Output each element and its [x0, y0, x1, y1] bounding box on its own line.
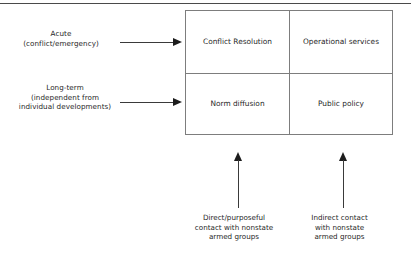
- arrow-shaft: [120, 42, 173, 43]
- column-caption-indirect-line-1: Indirect contact: [292, 213, 387, 223]
- arrow-head: [173, 38, 182, 46]
- matrix-cell-public-policy: Public policy: [289, 73, 392, 135]
- matrix-cell-conflict-resolution: Conflict Resolution: [186, 11, 289, 73]
- arrow-head: [173, 98, 182, 106]
- matrix-cell-label: Norm diffusion: [210, 99, 264, 109]
- column-caption-indirect-contact: Indirect contact with nonstate armed gro…: [292, 213, 387, 242]
- matrix-cell-label: Conflict Resolution: [203, 37, 272, 47]
- arrow-shaft: [238, 160, 239, 208]
- arrow-up-icon-direct-contact: [234, 152, 243, 208]
- row-label-long-term: Long-term (independent from individual d…: [6, 83, 124, 112]
- column-caption-direct-line-3: armed groups: [182, 232, 286, 242]
- diagram-canvas: Acute (conflict/emergency) Long-term (in…: [0, 0, 411, 260]
- column-caption-direct-line-1: Direct/purposeful: [182, 213, 286, 223]
- column-caption-indirect-line-2: with nonstate: [292, 223, 387, 233]
- arrow-shaft: [120, 102, 173, 103]
- matrix-cell-operational-services: Operational services: [289, 11, 392, 73]
- arrow-right-icon-long-term: [120, 98, 182, 107]
- column-caption-direct-line-2: contact with nonstate: [182, 223, 286, 233]
- column-caption-direct-contact: Direct/purposeful contact with nonstate …: [182, 213, 286, 242]
- row-label-acute-line-2: (conflict/emergency): [6, 39, 116, 49]
- row-label-acute: Acute (conflict/emergency): [6, 29, 116, 48]
- row-label-long-term-line-3: individual developments): [6, 102, 124, 112]
- column-caption-indirect-line-3: armed groups: [292, 232, 387, 242]
- row-label-long-term-line-2: (independent from: [6, 93, 124, 103]
- row-label-acute-line-1: Acute: [6, 29, 116, 39]
- arrow-right-icon-acute: [120, 38, 182, 47]
- row-label-long-term-line-1: Long-term: [6, 83, 124, 93]
- matrix-cell-label: Operational services: [303, 37, 379, 47]
- arrow-up-icon-indirect-contact: [339, 152, 348, 208]
- arrow-shaft: [343, 160, 344, 208]
- matrix-cell-norm-diffusion: Norm diffusion: [186, 73, 289, 135]
- matrix-cell-label: Public policy: [318, 99, 364, 109]
- top-horizontal-rule: [0, 3, 411, 4]
- matrix-grid: Conflict Resolution Operational services…: [185, 10, 393, 135]
